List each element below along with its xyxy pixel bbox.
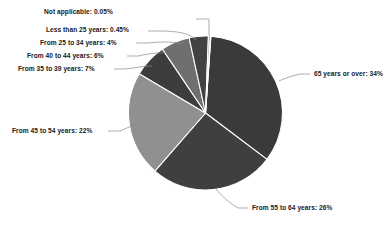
pie-label-from-55-to-64: From 55 to 64 years: 26% <box>252 205 332 212</box>
pie-label-not-applicable: Not applicable: 0.05% <box>44 9 113 16</box>
pie-chart-canvas <box>0 0 392 227</box>
pie-label-from-40-to-44: From 40 to 44 years: 6% <box>27 53 104 60</box>
pie-label-from-45-to-54: From 45 to 54 years: 22% <box>12 128 92 135</box>
pie-label-from-25-to-34: From 25 to 34 years: 4% <box>40 40 117 47</box>
pie-label-65-or-over: 65 years or over: 34% <box>314 71 383 78</box>
pie-chart-figure: Not applicable: 0.05% Less than 25 years… <box>0 0 392 227</box>
pie-slice-group <box>129 36 283 190</box>
pie-label-less-than-25: Less than 25 years: 0.45% <box>46 27 129 34</box>
leader-line-not-applicable <box>196 19 209 36</box>
leader-line-65-or-over <box>279 74 310 81</box>
pie-label-from-35-to-39: From 35 to 39 years: 7% <box>18 66 95 73</box>
leader-line-from-55-to-64 <box>216 189 248 208</box>
